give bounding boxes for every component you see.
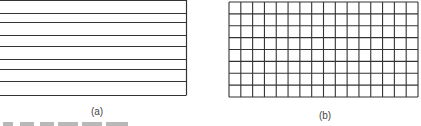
panel-b-label: (b) bbox=[310, 110, 340, 121]
panel-a-label: (a) bbox=[82, 106, 112, 117]
grid-drawing bbox=[0, 0, 421, 100]
panel-b-grid bbox=[0, 0, 421, 100]
figure-caption-cutoff bbox=[0, 121, 135, 126]
